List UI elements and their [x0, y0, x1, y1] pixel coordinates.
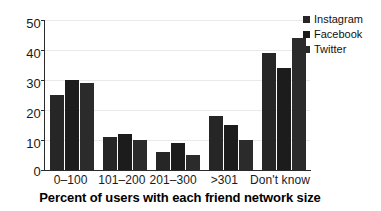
y-tick-label-10: 10: [3, 137, 41, 150]
bar-group-101-200: [98, 20, 151, 170]
legend-swatch-icon-facebook: [303, 31, 310, 38]
bar-facebook-over-301: [224, 125, 238, 170]
legend-label-facebook: Facebook: [314, 29, 362, 40]
y-tick-label-40: 40: [3, 47, 41, 60]
bar-twitter-over-301: [239, 140, 253, 170]
bar-facebook-dont-know: [277, 68, 291, 170]
y-tick-label-20: 20: [3, 107, 41, 120]
bar-instagram-101-200: [103, 137, 117, 170]
bar-facebook-101-200: [118, 134, 132, 170]
legend-item-facebook: Facebook: [303, 27, 381, 42]
bar-twitter-201-300: [186, 155, 200, 170]
bar-facebook-201-300: [171, 143, 185, 170]
bar-instagram-201-300: [156, 152, 170, 170]
y-tick-label-0: 0: [3, 165, 41, 178]
bar-group-0-100: [45, 20, 98, 170]
legend: Instagram Facebook Twitter: [303, 12, 381, 57]
bar-group-over-301: [204, 20, 257, 170]
x-axis-tick-labels: 0–100 101–200 201–300 >301 Don't know: [45, 173, 310, 187]
legend-label-twitter: Twitter: [314, 44, 346, 55]
bar-group-201-300: [151, 20, 204, 170]
legend-swatch-icon-twitter: [303, 46, 310, 53]
legend-swatch-icon-instagram: [303, 16, 310, 23]
x-tick-label-dont-know: Don't know: [250, 173, 310, 187]
bar-chart: 50 40 30 20 10 0: [0, 0, 381, 211]
bar-instagram-dont-know: [262, 53, 276, 170]
y-tick-label-30: 30: [3, 77, 41, 90]
bar-twitter-0-100: [80, 83, 94, 170]
x-axis-line: [44, 170, 311, 171]
legend-item-twitter: Twitter: [303, 42, 381, 57]
bar-groups: [45, 20, 310, 170]
x-tick-label-over-301: >301: [199, 173, 250, 187]
bar-instagram-over-301: [209, 116, 223, 170]
y-tick-label-50: 50: [3, 17, 41, 30]
legend-label-instagram: Instagram: [314, 14, 363, 25]
bar-instagram-0-100: [50, 95, 64, 170]
plot-area: [45, 20, 310, 170]
y-axis: 50 40 30 20 10 0: [0, 0, 41, 211]
bar-facebook-0-100: [65, 80, 79, 170]
legend-item-instagram: Instagram: [303, 12, 381, 27]
bar-twitter-dont-know: [292, 38, 306, 170]
x-tick-label-0-100: 0–100: [45, 173, 96, 187]
bar-twitter-101-200: [133, 140, 147, 170]
x-tick-label-101-200: 101–200: [96, 173, 147, 187]
x-tick-label-201-300: 201–300: [148, 173, 199, 187]
x-axis-title: Percent of users with each friend networ…: [0, 190, 360, 205]
